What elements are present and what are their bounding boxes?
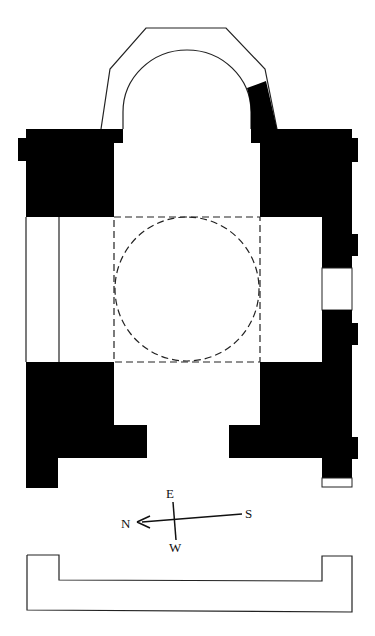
lower-right-pier [229, 310, 358, 487]
upper-right-pier [251, 129, 358, 268]
base-outline [27, 555, 352, 612]
compass-label-east: E [166, 486, 174, 501]
lower-left-pier [26, 362, 147, 488]
left-aisle [26, 217, 59, 362]
compass-label-south: S [245, 506, 252, 521]
upper-left-pier [18, 129, 123, 217]
compass-label-west: W [169, 540, 182, 555]
dashed-dome-circle [115, 217, 259, 361]
right-wall-with-window [322, 268, 352, 310]
compass-label-north: N [121, 516, 131, 531]
apse [101, 28, 277, 129]
floor-plan: N E S W [0, 0, 375, 636]
compass: N E S W [121, 486, 252, 555]
